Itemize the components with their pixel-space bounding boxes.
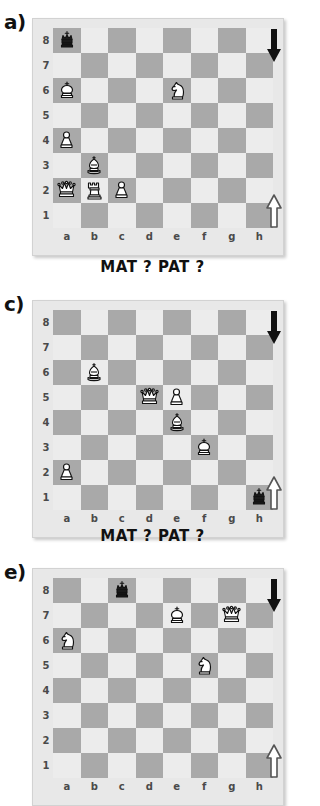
square-b7[interactable] [81, 603, 109, 628]
square-d8[interactable] [136, 578, 164, 603]
white-queen-icon[interactable] [53, 178, 81, 203]
square-e1[interactable] [163, 203, 191, 228]
white-king-icon[interactable] [53, 78, 81, 103]
square-c4[interactable] [108, 678, 136, 703]
square-b4[interactable] [81, 128, 109, 153]
square-d1[interactable] [136, 753, 164, 778]
square-c5[interactable] [108, 385, 136, 410]
square-e6[interactable] [163, 360, 191, 385]
square-b1[interactable] [81, 203, 109, 228]
square-d3[interactable] [136, 703, 164, 728]
square-f2[interactable] [191, 728, 219, 753]
square-b8[interactable] [81, 310, 109, 335]
square-e3[interactable] [163, 153, 191, 178]
square-h3[interactable] [246, 435, 274, 460]
chessboard[interactable]: 87654321abcdefgh [32, 18, 284, 256]
square-d1[interactable] [136, 485, 164, 510]
square-b6[interactable] [81, 78, 109, 103]
square-e1[interactable] [163, 753, 191, 778]
square-b2[interactable] [81, 728, 109, 753]
square-e2[interactable] [163, 178, 191, 203]
square-c6[interactable] [108, 78, 136, 103]
white-bishop-icon[interactable] [81, 360, 109, 385]
white-knight-icon[interactable] [53, 628, 81, 653]
square-f4[interactable] [191, 678, 219, 703]
square-f7[interactable] [191, 335, 219, 360]
square-b8[interactable] [81, 28, 109, 53]
square-h5[interactable] [246, 103, 274, 128]
square-b7[interactable] [81, 53, 109, 78]
square-h6[interactable] [246, 360, 274, 385]
square-c6[interactable] [108, 360, 136, 385]
square-g2[interactable] [218, 728, 246, 753]
square-g1[interactable] [218, 753, 246, 778]
square-f3[interactable] [191, 153, 219, 178]
square-g6[interactable] [218, 628, 246, 653]
square-g4[interactable] [218, 678, 246, 703]
square-b4[interactable] [81, 678, 109, 703]
square-d7[interactable] [136, 335, 164, 360]
square-g2[interactable] [218, 178, 246, 203]
square-f6[interactable] [191, 360, 219, 385]
square-e2[interactable] [163, 460, 191, 485]
square-c3[interactable] [108, 153, 136, 178]
square-a4[interactable] [53, 410, 81, 435]
white-king-icon[interactable] [163, 603, 191, 628]
square-g5[interactable] [218, 103, 246, 128]
white-rook-icon[interactable] [81, 178, 109, 203]
square-b2[interactable] [81, 460, 109, 485]
square-g6[interactable] [218, 360, 246, 385]
square-f4[interactable] [191, 128, 219, 153]
square-b5[interactable] [81, 103, 109, 128]
square-g7[interactable] [218, 335, 246, 360]
square-c4[interactable] [108, 410, 136, 435]
square-d8[interactable] [136, 310, 164, 335]
square-f3[interactable] [191, 703, 219, 728]
square-d4[interactable] [136, 678, 164, 703]
square-c3[interactable] [108, 703, 136, 728]
square-b4[interactable] [81, 410, 109, 435]
square-a6[interactable] [53, 360, 81, 385]
square-c8[interactable] [108, 28, 136, 53]
square-a2[interactable] [53, 728, 81, 753]
square-e8[interactable] [163, 578, 191, 603]
square-f7[interactable] [191, 53, 219, 78]
square-g4[interactable] [218, 410, 246, 435]
square-h3[interactable] [246, 153, 274, 178]
square-e2[interactable] [163, 728, 191, 753]
square-g3[interactable] [218, 703, 246, 728]
square-d7[interactable] [136, 603, 164, 628]
chessboard[interactable]: 87654321abcdefgh [32, 568, 284, 806]
square-a7[interactable] [53, 335, 81, 360]
square-a8[interactable] [53, 578, 81, 603]
square-g4[interactable] [218, 128, 246, 153]
square-a3[interactable] [53, 435, 81, 460]
white-pawn-icon[interactable] [53, 128, 81, 153]
square-b3[interactable] [81, 703, 109, 728]
white-queen-icon[interactable] [136, 385, 164, 410]
square-b8[interactable] [81, 578, 109, 603]
square-h6[interactable] [246, 628, 274, 653]
square-g7[interactable] [218, 53, 246, 78]
square-g8[interactable] [218, 578, 246, 603]
square-e5[interactable] [163, 653, 191, 678]
white-knight-icon[interactable] [163, 78, 191, 103]
square-c8[interactable] [108, 310, 136, 335]
square-e3[interactable] [163, 703, 191, 728]
square-c7[interactable] [108, 603, 136, 628]
square-b5[interactable] [81, 653, 109, 678]
square-c7[interactable] [108, 53, 136, 78]
square-e7[interactable] [163, 53, 191, 78]
square-g6[interactable] [218, 78, 246, 103]
square-g1[interactable] [218, 203, 246, 228]
square-f1[interactable] [191, 485, 219, 510]
square-d3[interactable] [136, 153, 164, 178]
board-squares[interactable] [53, 310, 273, 510]
square-c3[interactable] [108, 435, 136, 460]
square-d8[interactable] [136, 28, 164, 53]
square-h4[interactable] [246, 128, 274, 153]
square-e1[interactable] [163, 485, 191, 510]
square-c7[interactable] [108, 335, 136, 360]
square-b6[interactable] [81, 628, 109, 653]
square-d2[interactable] [136, 178, 164, 203]
